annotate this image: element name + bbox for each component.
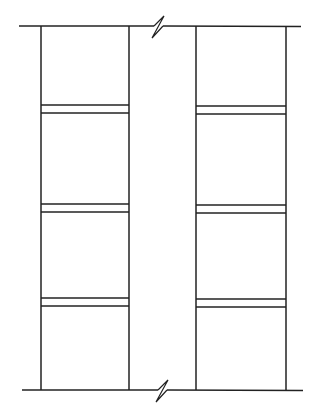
top-boundary-line-right: [163, 26, 301, 27]
diagram-canvas: [0, 0, 322, 416]
bottom-boundary-line-right: [167, 390, 303, 391]
top-break-symbol-icon: [152, 16, 164, 38]
bottom-break-symbol-icon: [156, 380, 168, 402]
